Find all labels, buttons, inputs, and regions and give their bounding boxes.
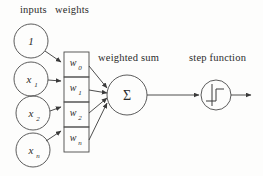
weight-sub-0: 0 (78, 64, 82, 72)
weight-box-2 (64, 102, 89, 127)
input-label-0: 1 (28, 35, 34, 47)
weight-node-0: w 0 (64, 52, 89, 77)
weight-node-2: w 2 (64, 102, 89, 127)
weight-sub-3: n (78, 139, 82, 147)
weight-box-3 (64, 127, 89, 152)
weight-node-1: w 1 (64, 77, 89, 102)
input-label-2: x (28, 107, 34, 119)
weight-box-0 (64, 52, 89, 77)
weight-sub-1: 1 (78, 89, 82, 97)
input-label-1: x (26, 73, 32, 85)
arrow-input1-to-weight1 (48, 80, 61, 81)
weight-label-3: w (70, 132, 77, 143)
step-function-icon (206, 84, 224, 106)
arrow-weightn-to-sum (89, 103, 107, 140)
weight-label-0: w (70, 57, 77, 68)
weight-sub-2: 2 (78, 114, 82, 122)
input-node-1: x 1 (14, 62, 48, 96)
input-label-3: x (28, 144, 34, 156)
activation-node (201, 80, 231, 110)
weight-box-1 (64, 77, 89, 102)
arrow-weight2-to-sum (89, 98, 107, 113)
input-sub-1: 1 (34, 81, 38, 89)
input-node-0: 1 (14, 24, 48, 58)
weight-label-1: w (70, 82, 77, 93)
input-sub-3: n (36, 152, 40, 160)
input-node-3: x n (16, 133, 50, 167)
arrow-weight1-to-sum (89, 90, 107, 93)
perceptron-diagram: inputs weights weighted sum step functio… (0, 0, 263, 176)
sum-node: Σ (107, 75, 147, 115)
arrow-weight0-to-sum (89, 66, 107, 88)
weight-label-2: w (70, 107, 77, 118)
weight-node-3: w n (64, 127, 89, 152)
sum-symbol: Σ (123, 88, 131, 103)
arrow-input3-to-weightn (46, 131, 61, 141)
arrow-input0-to-weight0 (45, 51, 61, 62)
input-sub-2: 2 (36, 115, 40, 123)
arrow-input2-to-weight2 (50, 107, 61, 111)
input-node-2: x 2 (16, 96, 50, 130)
diagram-canvas: 1 x 1 x 2 x n w 0 w (0, 0, 263, 176)
